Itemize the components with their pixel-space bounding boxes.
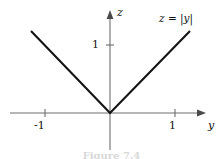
equation-lhs: z <box>159 12 165 24</box>
equation-abs-close: | <box>190 12 194 24</box>
figure-caption: Figure 7.4 <box>0 150 223 159</box>
tick-label-y-negative-one: -1 <box>34 120 45 131</box>
axis-label-y: y <box>208 120 214 131</box>
figure-container: -1 1 1 y z z = |y| Figure 7.4 <box>0 0 223 159</box>
tick-label-z-one: 1 <box>92 39 99 50</box>
tick-label-y-positive-one: 1 <box>169 120 176 131</box>
equation-equals: = <box>168 12 177 24</box>
y-axis-arrowhead <box>197 110 206 117</box>
curve-equation-label: z = |y| <box>159 13 193 24</box>
axis-label-z: z <box>117 7 123 18</box>
z-axis-arrowhead <box>107 10 114 19</box>
